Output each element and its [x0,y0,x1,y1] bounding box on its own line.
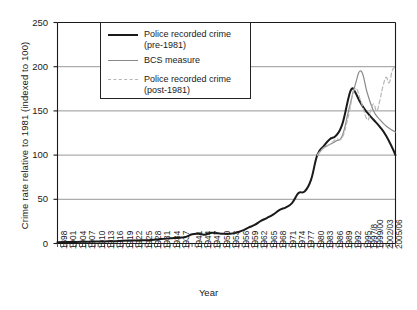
x-tick-label: 1934 [174,230,182,248]
x-tick-label: 1925 [146,230,154,248]
x-tick-label: 1962 [261,230,269,248]
x-tick-label: 1989 [346,230,354,248]
legend-swatch-police-pre-1981 [108,29,138,41]
x-tick-label: 1992 [355,230,363,248]
x-tick-label: 1919 [127,230,135,248]
legend-swatch-bcs-measure [108,55,138,67]
legend-item-bcs-measure: BCS measure [101,55,252,67]
x-tick-label: 1928 [155,230,163,248]
x-tick-label: 1968 [280,230,288,248]
x-tick-label: 1980 [318,230,326,248]
x-tick-label: 1947 [214,230,222,248]
x-tick-label: 1941 [196,230,204,248]
x-tick-label: 1999/00 [377,219,385,249]
legend-swatch-police-post-1981 [108,74,138,86]
legend-label-police-pre-1981: Police recorded crime (pre-1981) [144,29,231,50]
legend-label-bcs-measure: BCS measure [144,55,200,66]
y-axis-title: Crime rate relative to 1981 (indexed to … [19,16,30,256]
x-tick-label: 1937 [183,230,191,248]
y-tick-label: 200 [14,62,48,72]
x-tick-label: 1983 [327,230,335,248]
x-tick-label: 1910 [99,230,107,248]
y-tick-label: 100 [14,150,48,160]
x-tick-label: 2002/03 [387,219,395,249]
x-tick-label: 1950 [224,230,232,248]
chart-legend: Police recorded crime (pre-1981) BCS mea… [100,22,251,99]
legend-label-police-post-1981: Police recorded crime (post-1981) [144,74,231,95]
x-tick-label: 1904 [80,230,88,248]
y-tick-label: 0 [14,239,48,249]
x-tick-label: 2005/06 [396,219,404,249]
x-tick-label: 1986 [337,230,345,248]
x-tick-label: 1977 [308,230,316,248]
x-tick-label: 1931 [164,230,172,248]
x-tick-label: 1913 [108,230,116,248]
x-tick-label: 1974 [299,230,307,248]
crime-rate-line-chart: Crime rate relative to 1981 (indexed to … [0,0,417,310]
x-tick-label: 1971 [290,230,298,248]
x-axis-title: Year [0,287,417,298]
x-tick-label: 1953 [233,230,241,248]
y-tick-label: 150 [14,106,48,116]
x-tick-label: 1916 [117,230,125,248]
x-tick-label: 1956 [243,230,251,248]
y-tick-label: 250 [14,18,48,28]
x-tick-label: 1959 [252,230,260,248]
legend-item-police-pre-1981: Police recorded crime (pre-1981) [101,29,252,50]
x-tick-label: 1965 [271,230,279,248]
legend-item-police-post-1981: Police recorded crime (post-1981) [101,74,252,95]
x-tick-label: 1922 [136,230,144,248]
y-tick-label: 50 [14,194,48,204]
x-tick-label: 1907 [89,230,97,248]
x-tick-label: 1901 [70,230,78,248]
